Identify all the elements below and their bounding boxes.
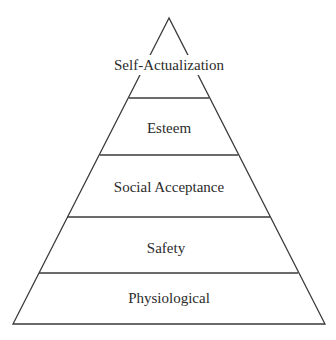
- level-label-esteem: Esteem: [147, 120, 191, 136]
- level-label-social-acceptance: Social Acceptance: [114, 179, 225, 195]
- pyramid-diagram: Self-Actualization Esteem Social Accepta…: [0, 0, 336, 340]
- level-label-safety: Safety: [147, 240, 186, 256]
- level-label-self-actualization: Self-Actualization: [114, 57, 224, 73]
- level-label-physiological: Physiological: [128, 290, 210, 306]
